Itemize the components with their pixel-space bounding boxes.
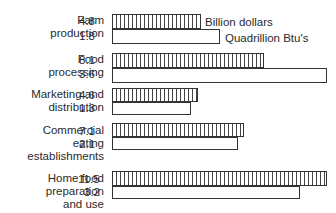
label-line: Farm: [50, 14, 104, 27]
legend-quadrillion-btu: Quadrillion Btu's: [225, 32, 308, 45]
label-line: Food: [48, 53, 104, 66]
value-farm-btu: 1.8: [79, 30, 95, 43]
value-food-dollars: 8.1: [79, 54, 95, 67]
bar-home-btu: [112, 186, 300, 199]
bar-marketing-btu: [112, 102, 191, 115]
bar-commercial-dollars: [112, 123, 244, 137]
value-commercial-btu: 2.1: [79, 138, 95, 151]
value-home-btu: 3.2: [84, 186, 100, 199]
bar-home-dollars: [112, 171, 327, 186]
label-line: production: [50, 27, 104, 40]
bar-food-btu: [112, 68, 327, 83]
value-farm-dollars: 4.8: [79, 15, 95, 28]
label-line: establishments: [27, 150, 104, 163]
label-line: processing: [48, 66, 104, 79]
category-label-farm-production: Farm production: [50, 14, 104, 40]
category-label-food-processing: Food processing: [48, 53, 104, 79]
value-marketing-dollars: 4.6: [79, 89, 95, 102]
bar-farm-dollars: [112, 14, 201, 29]
legend-billion-dollars: Billion dollars: [205, 16, 273, 29]
label-line: and use: [46, 198, 104, 211]
value-marketing-btu: 1.3: [79, 102, 95, 115]
value-food-btu: 3.6: [79, 68, 95, 81]
bar-farm-btu: [112, 29, 220, 44]
value-home-dollars: 11.5: [78, 173, 100, 186]
bar-food-dollars: [112, 53, 264, 68]
bar-marketing-dollars: [112, 88, 198, 102]
value-commercial-dollars: 7.1: [79, 125, 95, 138]
bar-commercial-btu: [112, 137, 238, 150]
